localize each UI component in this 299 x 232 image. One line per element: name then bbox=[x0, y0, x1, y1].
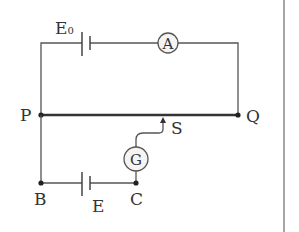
wire-p-to-e0 bbox=[41, 43, 82, 115]
main-battery-e0 bbox=[82, 32, 90, 56]
label-q: Q bbox=[246, 106, 260, 126]
lower-loop-wires bbox=[41, 115, 136, 183]
ammeter-label: A bbox=[162, 35, 174, 53]
label-e0: E0 bbox=[55, 18, 74, 38]
galvanometer-label: G bbox=[130, 151, 142, 169]
wire-ammeter-to-q bbox=[178, 43, 238, 115]
junction-c bbox=[133, 180, 138, 185]
label-s: S bbox=[171, 118, 183, 138]
junction-b bbox=[38, 180, 43, 185]
circuit-diagram: E0 A P Q B C E G S bbox=[0, 0, 299, 232]
label-c: C bbox=[130, 189, 143, 209]
label-b: B bbox=[34, 189, 47, 209]
galvanometer: G bbox=[124, 147, 148, 171]
top-loop-wires bbox=[41, 43, 238, 115]
ammeter: A bbox=[158, 33, 178, 53]
sliding-contact-wire bbox=[136, 121, 163, 147]
test-battery-e bbox=[82, 172, 90, 196]
label-p: P bbox=[20, 105, 31, 125]
label-e: E bbox=[92, 196, 104, 216]
junction-q bbox=[235, 112, 240, 117]
sliding-contact-arrow-icon bbox=[160, 117, 166, 123]
wire-p-to-b-to-e bbox=[41, 115, 82, 183]
